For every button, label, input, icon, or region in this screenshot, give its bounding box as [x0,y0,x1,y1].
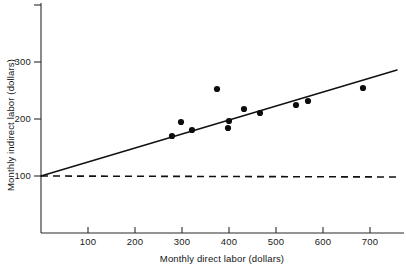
y-tick-label-300: 300 [15,56,31,67]
x-tick-label-400: 400 [221,236,237,247]
data-point [226,118,232,124]
x-axis-title: Monthly direct labor (dollars) [160,253,284,264]
data-point [225,125,231,131]
x-tick-label-100: 100 [80,236,96,247]
fixed-cost-reference-line [41,176,400,177]
data-point [293,102,299,108]
x-tick-label-700: 700 [362,236,378,247]
data-point [214,86,220,92]
x-tick-label-600: 600 [315,236,331,247]
x-tick-label-300: 300 [174,236,190,247]
data-point [257,110,263,116]
x-tick-label-200: 200 [127,236,143,247]
x-axis-ticks [88,227,370,233]
chart-canvas: 300 200 100 100 200 300 400 500 600 700 [0,0,406,268]
y-axis-tick-labels: 300 200 100 [15,56,31,181]
axis-lines [41,3,404,233]
regression-line [41,70,397,176]
data-point [305,98,311,104]
y-axis-ticks [34,5,41,176]
scatter-plot-figure: 300 200 100 100 200 300 400 500 600 700 [0,0,406,268]
data-point [189,127,195,133]
y-tick-label-200: 200 [15,113,31,124]
y-tick-label-100: 100 [15,170,31,181]
x-axis-tick-labels: 100 200 300 400 500 600 700 [80,236,378,247]
data-point [241,106,247,112]
y-axis-title: Monthly indirect labor (dollars) [5,59,16,191]
x-tick-label-500: 500 [268,236,284,247]
data-point-group [169,85,366,139]
data-point [169,133,175,139]
data-point [178,119,184,125]
data-point [360,85,366,91]
